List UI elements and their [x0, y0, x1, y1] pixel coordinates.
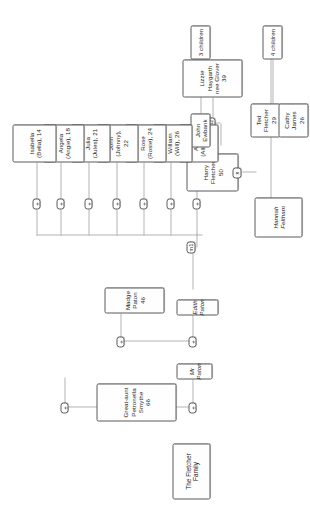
- node-three-children[interactable]: 3 children: [190, 25, 210, 59]
- expander-rose[interactable]: +: [139, 198, 147, 209]
- plus-icon: +: [193, 199, 199, 208]
- connector-ted-to-children: [272, 59, 273, 103]
- divorce-tag-x[interactable]: x: [232, 167, 241, 178]
- node-mr-paton[interactable]: Mr Paton: [176, 363, 212, 379]
- node-ted-fletcher[interactable]: Ted Fletcher 29: [250, 103, 280, 137]
- connector-x-to-hannah: [242, 171, 256, 172]
- connector-expander-angela: [60, 162, 61, 198]
- expander-isabella[interactable]: +: [32, 198, 40, 209]
- connector-child-angela: [60, 209, 61, 235]
- plus-icon: +: [33, 199, 39, 208]
- node-great-aunt-petronella-smythe[interactable]: Great-aunt Petronella Smythe 66: [96, 383, 176, 421]
- expander-angela[interactable]: +: [56, 198, 64, 209]
- family-tree-diagram: The Fletcher Family Great-aunt Petronell…: [0, 0, 283, 517]
- connector-m2-to-lizzie: [212, 97, 213, 117]
- expander-john[interactable]: +: [112, 198, 120, 209]
- node-edith-paton[interactable]: Edith Paton: [176, 299, 218, 315]
- connector-expander-william: [170, 162, 171, 198]
- diagram-title-box: The Fletcher Family: [172, 443, 210, 499]
- expander-edith-paton[interactable]: +: [188, 336, 196, 347]
- node-lizzie-haygarth[interactable]: Lizzie Haygarth nee Glover 39: [182, 59, 242, 97]
- connector-child-rose: [143, 209, 144, 235]
- expander-great-aunt[interactable]: +: [60, 402, 68, 413]
- plus-icon: +: [167, 199, 173, 208]
- node-four-children[interactable]: 4 children: [262, 25, 282, 59]
- connector-paton-couple-spine: [120, 340, 192, 341]
- node-cathy-james[interactable]: Cathy James 26: [278, 103, 283, 137]
- expander-mr-paton[interactable]: +: [188, 402, 196, 413]
- node-madge-paton[interactable]: Madge Paton 46: [104, 287, 164, 313]
- plus-icon: +: [113, 199, 119, 208]
- expander-william[interactable]: +: [166, 198, 174, 209]
- connector-expander-john: [116, 162, 117, 198]
- connector-child-john: [116, 209, 117, 235]
- plus-icon: +: [189, 337, 195, 346]
- plus-icon: +: [117, 337, 123, 346]
- connector-child-julia: [88, 209, 89, 235]
- connector-child-william: [170, 209, 171, 235]
- expander-julia[interactable]: +: [84, 198, 92, 209]
- node-hannah-feltham[interactable]: Hannah Feltham: [254, 197, 283, 237]
- plus-icon: +: [140, 199, 146, 208]
- expander-alicia[interactable]: +: [192, 198, 200, 209]
- plus-icon: +: [85, 199, 91, 208]
- connector-expander-julia: [88, 162, 89, 198]
- marriage-tag-m1[interactable]: m1: [186, 241, 195, 253]
- connector-child-alicia: [196, 209, 197, 235]
- connector-child-isabella: [36, 209, 37, 235]
- expander-madge-paton[interactable]: +: [116, 336, 124, 347]
- connector-expander-rose: [143, 162, 144, 198]
- node-john-ewbank[interactable]: John Ewbank: [190, 113, 210, 147]
- plus-icon: +: [61, 403, 67, 412]
- connector-expander-isabella: [36, 162, 37, 198]
- plus-icon: +: [189, 403, 195, 412]
- connector-harry-to-m2: [220, 123, 221, 145]
- diagram-canvas: The Fletcher Family Great-aunt Petronell…: [0, 0, 283, 517]
- node-isabella[interactable]: Isabella (Bella), 14: [12, 124, 56, 162]
- plus-icon: +: [57, 199, 63, 208]
